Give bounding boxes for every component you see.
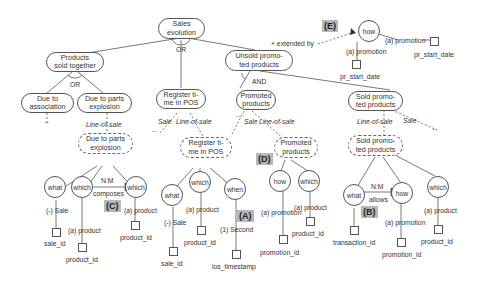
ellipsis: ...: [236, 111, 240, 118]
dimension-what[interactable]: what: [343, 184, 365, 206]
goal-label: products: [242, 99, 270, 108]
attribute-name: los_timestamp: [212, 263, 256, 270]
relation-cardinality: N:M: [101, 177, 113, 184]
context-label: ted products: [356, 145, 396, 154]
sale-label: Sale: [244, 118, 258, 125]
context-sold-promoted-products[interactable]: Sold promo-ted products: [348, 135, 403, 156]
relation-label: allows: [369, 196, 388, 203]
line-of-sale-label: Line-of-sale: [176, 118, 212, 125]
dimension-when[interactable]: when: [224, 178, 246, 200]
or-decomposition-label: OR: [176, 46, 186, 53]
goal-label: explosion: [89, 102, 119, 111]
tag-e: (E): [322, 20, 338, 32]
goal-sales-evolution[interactable]: Salesevolution: [158, 18, 205, 39]
goal-due-to-association[interactable]: Due toassociation: [21, 93, 74, 113]
dimension-attr-label: (a) promotion: [346, 48, 386, 55]
attribute-name: pr_start_date: [414, 51, 454, 58]
attribute-square: [52, 228, 61, 237]
dimension-which[interactable]: which: [125, 176, 147, 198]
attribute-square: [78, 243, 87, 252]
relation-cardinality: N:M: [371, 183, 383, 190]
attribute-name: product_id: [66, 256, 98, 263]
line-of-sale-label: Line-of-sale: [259, 118, 295, 125]
attribute-square: [279, 235, 288, 244]
goal-label: sold together: [54, 61, 96, 70]
attribute-name: product_id: [120, 234, 152, 241]
attribute-square: [169, 247, 178, 256]
sale-label: Sale: [158, 118, 172, 125]
attribute-square: [306, 217, 315, 226]
attribute-name: transaction_id: [333, 239, 375, 246]
goal-label: association: [30, 102, 66, 111]
dimension-attr-label: (a) product: [186, 206, 219, 213]
context-due-to-parts-explosion[interactable]: Due to partsexplosion: [78, 133, 133, 154]
attribute-square: [197, 226, 206, 235]
dimension-how[interactable]: how: [391, 182, 413, 204]
attribute-name: sale_id: [44, 240, 66, 247]
dimension-attr-label: (a) product: [294, 204, 327, 211]
attribute-name: product_id: [292, 230, 324, 237]
dimension-attr-label: (-) Sale: [164, 219, 186, 226]
attribute-name: product_id: [184, 239, 216, 246]
ellipsis: ...: [152, 126, 156, 133]
dimension-attr-label: (a) promotion: [385, 219, 425, 226]
goal-due-to-parts-explosion[interactable]: Due to partsexplosion: [77, 93, 132, 113]
goal-sold-promoted-products[interactable]: Sold promo-ted products: [348, 91, 403, 111]
attribute-name: pr_start_date: [340, 73, 380, 80]
dimension-how[interactable]: how: [358, 20, 380, 42]
ellipsis: ...: [44, 117, 48, 124]
dimension-which[interactable]: which: [71, 176, 93, 198]
attribute-square: [350, 226, 359, 235]
dimension-attr-label: (a) product: [124, 207, 157, 214]
dimension-which[interactable]: which: [427, 176, 449, 198]
context-label: products: [282, 147, 310, 156]
context-label: explosion: [90, 143, 120, 152]
attribute-square: [430, 37, 439, 46]
dimension-how[interactable]: how: [269, 170, 291, 192]
ellipsis: ...: [432, 124, 436, 131]
context-register-time-in-pos[interactable]: Register ti-me in POS: [180, 137, 232, 158]
extended-by-label: + extended by: [271, 40, 314, 47]
tag-d: (D): [256, 153, 273, 165]
attribute-name: promotion_id: [382, 251, 421, 258]
attribute-square: [131, 221, 140, 230]
tag-b: (B): [361, 206, 378, 218]
context-label: me in POS: [189, 147, 224, 156]
dimension-attr-label: (a) product: [424, 207, 457, 214]
attribute-name: promotion_id: [260, 249, 299, 256]
attribute-square: [352, 60, 361, 69]
goal-promoted-products[interactable]: Promotedproducts: [236, 90, 276, 110]
dimension-attr-label: (a) product: [68, 227, 101, 234]
dimension-attr-label: (a) promotion: [385, 37, 425, 44]
attribute-square: [232, 250, 241, 259]
dimension-which[interactable]: which: [298, 170, 320, 192]
goal-unsold-promoted-products[interactable]: Unsold promo-ted products: [225, 50, 293, 71]
sale-label: Sale: [403, 117, 417, 124]
attribute-name: sale_id: [161, 260, 183, 267]
goal-label: evolution: [167, 28, 196, 37]
goal-label: me in POS: [164, 98, 199, 107]
attribute-square: [397, 238, 406, 247]
goal-register-time-in-pos[interactable]: Register ti-me in POS: [156, 89, 206, 109]
context-promoted-products[interactable]: Promotedproducts: [274, 137, 318, 158]
goal-label: ted products: [239, 60, 279, 69]
line-of-sale-label: Line-of-sale: [357, 118, 393, 125]
and-decomposition-label: AND: [252, 78, 266, 85]
dimension-what[interactable]: what: [161, 184, 183, 206]
attribute-square: [434, 225, 443, 234]
dimension-attr-label: (-) Sale: [46, 207, 68, 214]
tag-a: (A): [237, 210, 254, 222]
goal-products-sold-together[interactable]: Productssold together: [46, 52, 104, 72]
goal-model-diagram: Salesevolution OR Productssold together …: [0, 0, 477, 284]
dimension-attr-label: (1) Second: [220, 226, 253, 233]
line-of-sale-label: Line-of-sale: [86, 121, 122, 128]
relation-label: composes: [93, 190, 124, 197]
goal-label: ted products: [356, 100, 396, 109]
dimension-what[interactable]: what: [44, 176, 66, 198]
attribute-name: product_id: [421, 238, 453, 245]
dimension-which[interactable]: which: [189, 171, 211, 193]
tag-c: (C): [104, 200, 121, 212]
or-decomposition-label: OR: [70, 81, 80, 88]
